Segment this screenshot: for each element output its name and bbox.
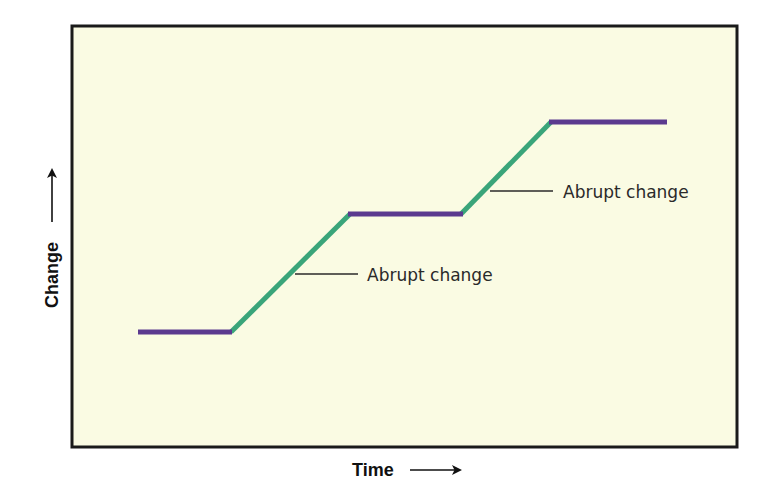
x-axis-label: Time [352, 460, 394, 480]
y-axis-label: Change [42, 242, 62, 308]
plot-area [72, 26, 737, 447]
diagram-canvas: Abrupt change Abrupt change Change Time [0, 0, 776, 493]
annotation-label-1: Abrupt change [367, 265, 493, 285]
annotation-label-2: Abrupt change [563, 182, 689, 202]
